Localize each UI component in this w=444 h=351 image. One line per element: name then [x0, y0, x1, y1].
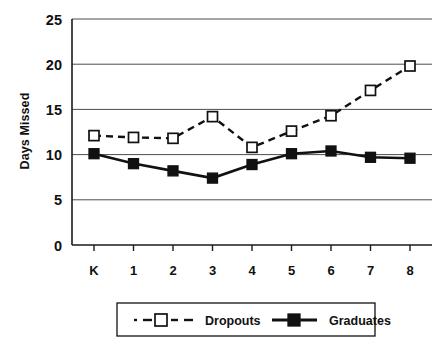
- x-tick-label-6: 6: [327, 263, 334, 278]
- x-tick-label-1: 1: [130, 263, 137, 278]
- legend-entry-graduates[interactable]: Graduates: [272, 314, 391, 328]
- x-tick-label-5: 5: [288, 263, 295, 278]
- legend-entry-dropouts[interactable]: Dropouts: [134, 314, 261, 328]
- data-point-graduates-5: [287, 149, 297, 159]
- series-line-dropouts: [94, 66, 410, 147]
- data-point-graduates-1: [129, 159, 139, 169]
- data-point-graduates-K: [89, 149, 99, 159]
- data-point-graduates-8: [405, 153, 415, 163]
- legend-label-dropouts: Dropouts: [205, 314, 261, 328]
- y-tick-label-15: 15: [46, 102, 62, 118]
- data-point-graduates-7: [366, 152, 376, 162]
- series-group-dropouts: [89, 61, 415, 152]
- y-tick-label-10: 10: [46, 147, 62, 163]
- data-point-graduates-3: [208, 173, 218, 183]
- data-point-graduates-4: [247, 160, 257, 170]
- x-tick-label-3: 3: [209, 263, 216, 278]
- x-tick-labels: K12345678: [89, 263, 413, 278]
- x-tick-label-8: 8: [406, 263, 413, 278]
- y-tick-labels: 0510152025: [46, 12, 62, 254]
- y-gridlines: [72, 19, 432, 200]
- data-point-graduates-2: [168, 166, 178, 176]
- data-point-graduates-6: [326, 146, 336, 156]
- data-point-dropouts-8: [405, 61, 415, 71]
- y-tick-label-0: 0: [54, 238, 62, 254]
- data-point-dropouts-2: [168, 133, 178, 143]
- data-point-dropouts-6: [326, 111, 336, 121]
- data-point-dropouts-4: [247, 142, 257, 152]
- y-tick-label-25: 25: [46, 12, 62, 28]
- line-chart-svg: 0510152025 K12345678 Dropouts Graduates: [0, 0, 444, 351]
- data-point-dropouts-5: [287, 126, 297, 136]
- chart-container: Days Missed 0510152025 K12345678 Dropout…: [0, 0, 444, 351]
- x-tick-label-K: K: [89, 263, 99, 278]
- x-axis-ticks: [94, 245, 410, 251]
- x-tick-label-4: 4: [248, 263, 256, 278]
- y-tick-label-20: 20: [46, 57, 62, 73]
- legend-dropouts-marker: [155, 314, 167, 326]
- legend-label-graduates: Graduates: [329, 314, 391, 328]
- x-tick-label-7: 7: [367, 263, 374, 278]
- x-tick-label-2: 2: [169, 263, 176, 278]
- y-tick-label-5: 5: [54, 192, 62, 208]
- data-point-dropouts-7: [366, 85, 376, 95]
- data-point-dropouts-K: [89, 131, 99, 141]
- data-point-dropouts-1: [129, 132, 139, 142]
- legend-graduates-marker: [288, 314, 300, 326]
- data-point-dropouts-3: [208, 112, 218, 122]
